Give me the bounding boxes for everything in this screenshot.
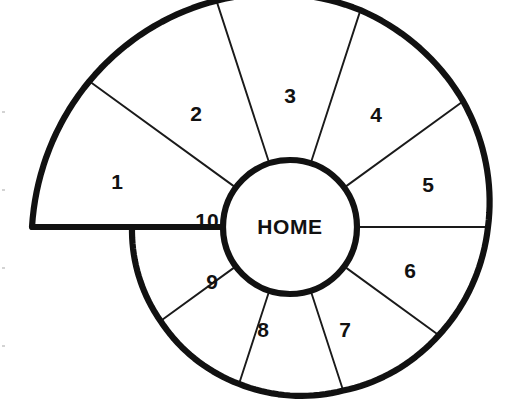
spiral-home-diagram: 12345678910HOME xyxy=(0,0,514,414)
sector-label-10: 10 xyxy=(195,209,218,232)
sector-label-8: 8 xyxy=(257,318,269,341)
sector-label-9: 9 xyxy=(206,270,218,293)
sector-label-6: 6 xyxy=(404,259,416,282)
home-label: HOME xyxy=(257,215,322,238)
sector-label-1: 1 xyxy=(111,170,123,193)
page-edge-marks xyxy=(2,112,5,346)
diagram-canvas: 12345678910HOME xyxy=(0,0,514,414)
sector-label-5: 5 xyxy=(422,173,434,196)
sector-label-7: 7 xyxy=(339,318,351,341)
sector-label-3: 3 xyxy=(284,84,296,107)
sector-label-2: 2 xyxy=(190,102,202,125)
sector-label-4: 4 xyxy=(370,103,382,126)
